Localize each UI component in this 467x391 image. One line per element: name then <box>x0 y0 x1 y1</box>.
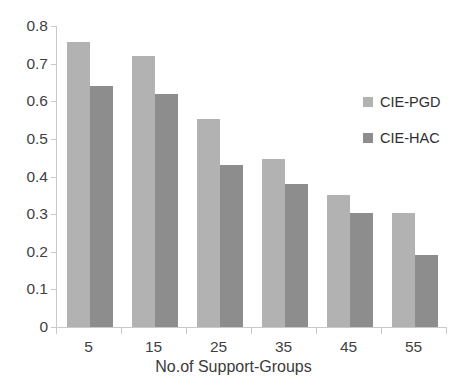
x-axis-category-label: 5 <box>84 338 93 356</box>
bar-cie-pgd-55 <box>392 213 415 327</box>
x-axis-tick <box>446 327 447 334</box>
bar-group <box>327 20 373 327</box>
bar-cie-pgd-5 <box>67 42 90 327</box>
y-axis-label: 0 <box>39 318 48 336</box>
x-axis-tick <box>251 327 252 334</box>
bars-layer <box>57 20 447 328</box>
x-axis-category-label: 45 <box>340 338 357 356</box>
y-axis-label: 0.5 <box>26 130 48 148</box>
x-axis-tick <box>381 327 382 334</box>
legend-item-cie-hac: CIE-HAC <box>363 127 467 149</box>
y-axis-label: 0.6 <box>26 92 48 110</box>
legend-item-cie-pgd: CIE-PGD <box>363 91 467 113</box>
legend-swatch-icon-cie-hac <box>363 133 373 143</box>
bar-cie-hac-35 <box>285 184 308 327</box>
y-axis-label: 0.1 <box>26 280 48 298</box>
bar-cie-pgd-35 <box>262 159 285 327</box>
bar-cie-hac-55 <box>415 255 438 327</box>
y-axis-label: 0.7 <box>26 55 48 73</box>
cropped-chart-title <box>70 0 270 3</box>
bar-group <box>392 20 438 327</box>
bar-cie-pgd-15 <box>132 56 155 327</box>
legend-swatch-icon-cie-pgd <box>363 97 373 107</box>
bar-cie-hac-5 <box>90 86 113 327</box>
bar-group <box>67 20 113 327</box>
bar-cie-pgd-25 <box>197 119 220 327</box>
bar-cie-hac-45 <box>350 213 373 327</box>
bar-group <box>132 20 178 327</box>
plot-area: 00.10.20.30.40.50.60.70.8 51525354555 <box>56 20 448 332</box>
x-axis-category-label: 15 <box>145 338 162 356</box>
bar-cie-hac-25 <box>220 165 243 327</box>
x-axis-tick <box>316 327 317 334</box>
bar-group <box>197 20 243 327</box>
x-axis-category-label: 55 <box>405 338 422 356</box>
y-axis-label: 0.4 <box>26 168 48 186</box>
y-axis-label: 0.2 <box>26 243 48 261</box>
x-axis-tick <box>186 327 187 334</box>
bar-cie-hac-15 <box>155 94 178 327</box>
bar-cie-pgd-45 <box>327 195 350 327</box>
chart-legend: CIE-PGD CIE-HAC <box>363 91 467 163</box>
x-axis-category-label: 35 <box>275 338 292 356</box>
x-axis-category-label: 25 <box>210 338 227 356</box>
x-axis-title: No.of Support-Groups <box>0 358 467 376</box>
bar-group <box>262 20 308 327</box>
y-axis-label: 0.8 <box>26 17 48 35</box>
x-axis-tick <box>121 327 122 334</box>
x-axis-tick <box>56 327 57 334</box>
y-axis-label: 0.3 <box>26 205 48 223</box>
legend-label-cie-hac: CIE-HAC <box>380 130 440 146</box>
bar-chart: 00.10.20.30.40.50.60.70.8 51525354555 No… <box>0 0 467 391</box>
legend-label-cie-pgd: CIE-PGD <box>380 94 440 110</box>
